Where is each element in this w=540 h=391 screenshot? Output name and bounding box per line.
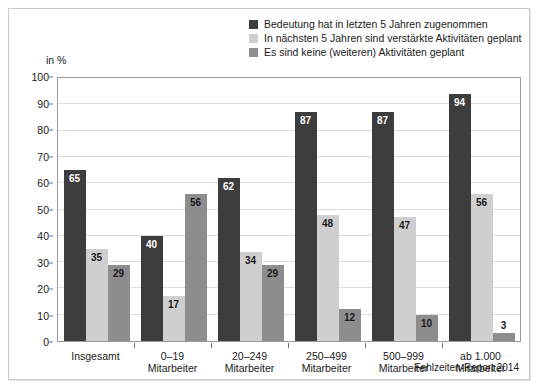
- bar[interactable]: 3: [493, 333, 515, 341]
- bar[interactable]: 56: [185, 194, 207, 341]
- source-note: Fehlzeiten-Report 2014: [414, 362, 519, 373]
- bar-group: 94563: [449, 78, 515, 341]
- bar-value-label: 65: [64, 173, 86, 184]
- legend-label-series-0: Bedeutung hat in letzten 5 Jahren zugeno…: [264, 18, 488, 30]
- bar-value-label: 56: [471, 197, 493, 208]
- y-axis-tick-label: 70: [37, 151, 49, 163]
- bar-value-label: 35: [86, 252, 108, 263]
- bar[interactable]: 48: [317, 215, 339, 341]
- y-axis-tick-label: 60: [37, 177, 49, 189]
- bar-value-label: 29: [108, 268, 130, 279]
- y-axis-tick-mark: [49, 315, 53, 316]
- plot-area: 65352940175662342987481287471094563: [57, 77, 521, 342]
- bar-value-label: 48: [317, 218, 339, 229]
- bar-value-label: 56: [185, 197, 207, 208]
- bar-value-label: 62: [218, 181, 240, 192]
- y-axis-tick-mark: [49, 156, 53, 157]
- y-axis-tick-label: 20: [37, 283, 49, 295]
- x-axis-tick-mark: [365, 343, 366, 348]
- bar[interactable]: 34: [240, 252, 262, 341]
- x-axis-tick-label-line: 500–999: [379, 350, 429, 362]
- x-axis-tick-label-line: ab 1.000: [456, 350, 506, 362]
- x-axis-tick-mark: [288, 343, 289, 348]
- y-axis-tick-label: 40: [37, 230, 49, 242]
- bar[interactable]: 87: [295, 112, 317, 341]
- chart-legend: Bedeutung hat in letzten 5 Jahren zugeno…: [249, 18, 539, 60]
- bar[interactable]: 62: [218, 178, 240, 341]
- legend-swatch-series-0: [249, 20, 258, 29]
- bar-value-label: 87: [295, 115, 317, 126]
- bar-value-label: 17: [163, 299, 185, 310]
- legend-item-1: In nächsten 5 Jahren sind verstärkte Akt…: [249, 32, 539, 45]
- bar-group: 874812: [295, 78, 361, 341]
- bar-group: 874710: [372, 78, 438, 341]
- bar[interactable]: 29: [108, 265, 130, 341]
- x-axis-tick-label-line: Mitarbeiter: [225, 362, 275, 374]
- x-axis-tick-label-line: Mitarbeiter: [302, 362, 352, 374]
- x-axis-tick-label-line: 250–499: [302, 350, 352, 362]
- bar-value-label: 10: [416, 318, 438, 329]
- y-axis-tick-mark: [49, 130, 53, 131]
- y-axis-tick-label: 30: [37, 257, 49, 269]
- y-axis-tick-label: 80: [37, 124, 49, 136]
- y-axis-tick-mark: [49, 77, 53, 78]
- x-axis-tick-mark: [442, 343, 443, 348]
- bar-group: 623429: [218, 78, 284, 341]
- x-axis-tick-label: 20–249Mitarbeiter: [225, 350, 275, 374]
- x-axis-tick-label: 0–19Mitarbeiter: [148, 350, 198, 374]
- legend-label-series-2: Es sind keine (weiteren) Aktivitäten gep…: [264, 46, 464, 58]
- y-axis-tick-mark: [49, 342, 53, 343]
- y-axis-tick-mark: [49, 236, 53, 237]
- bar[interactable]: 65: [64, 170, 86, 341]
- bar-value-label: 94: [449, 97, 471, 108]
- y-axis-tick-label: 90: [37, 98, 49, 110]
- bar[interactable]: 56: [471, 194, 493, 341]
- bar-group: 401756: [141, 78, 207, 341]
- bar[interactable]: 87: [372, 112, 394, 341]
- legend-swatch-series-1: [249, 34, 258, 43]
- bar[interactable]: 17: [163, 296, 185, 341]
- x-axis-tick-label-line: 20–249: [225, 350, 275, 362]
- x-axis-tick-label: Insgesamt: [71, 350, 119, 362]
- bar-group: 653529: [64, 78, 130, 341]
- bar[interactable]: 29: [262, 265, 284, 341]
- bar[interactable]: 10: [416, 315, 438, 341]
- y-axis-tick-mark: [49, 103, 53, 104]
- y-axis-tick-label: 10: [37, 310, 49, 322]
- y-axis: 0102030405060708090100: [17, 77, 53, 342]
- y-axis-unit-label: in %: [46, 54, 66, 66]
- bar-value-label: 87: [372, 115, 394, 126]
- bar-value-label: 3: [493, 320, 515, 331]
- bar-value-label: 40: [141, 239, 163, 250]
- x-axis-tick-mark: [211, 343, 212, 348]
- bar[interactable]: 12: [339, 309, 361, 341]
- y-axis-tick-mark: [49, 262, 53, 263]
- legend-swatch-series-2: [249, 48, 258, 57]
- bar-groups: 65352940175662342987481287471094563: [58, 78, 520, 341]
- x-axis-tick-label-line: Mitarbeiter: [148, 362, 198, 374]
- y-axis-tick-label: 50: [37, 204, 49, 216]
- x-axis-tick-label: 250–499Mitarbeiter: [302, 350, 352, 374]
- bar[interactable]: 94: [449, 94, 471, 341]
- bar-value-label: 34: [240, 255, 262, 266]
- legend-item-2: Es sind keine (weiteren) Aktivitäten gep…: [249, 46, 539, 59]
- y-axis-tick-mark: [49, 209, 53, 210]
- x-axis-tick-label-line: Insgesamt: [71, 350, 119, 362]
- y-axis-tick-label: 100: [31, 71, 49, 83]
- legend-item-0: Bedeutung hat in letzten 5 Jahren zugeno…: [249, 18, 539, 31]
- bar[interactable]: 47: [394, 217, 416, 341]
- bar-value-label: 47: [394, 220, 416, 231]
- x-axis-tick-mark: [134, 343, 135, 348]
- bar[interactable]: 35: [86, 249, 108, 341]
- bar[interactable]: 40: [141, 236, 163, 341]
- bar-value-label: 12: [339, 312, 361, 323]
- bar-value-label: 29: [262, 268, 284, 279]
- y-axis-tick-mark: [49, 183, 53, 184]
- chart-figure: Bedeutung hat in letzten 5 Jahren zugeno…: [8, 8, 530, 380]
- y-axis-tick-mark: [49, 289, 53, 290]
- x-axis-tick-label-line: 0–19: [148, 350, 198, 362]
- legend-label-series-1: In nächsten 5 Jahren sind verstärkte Akt…: [264, 32, 521, 44]
